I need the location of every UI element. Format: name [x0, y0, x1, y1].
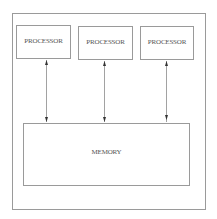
arrow-head-down-3 [165, 115, 168, 120]
arrow-head-up-3 [165, 61, 168, 66]
arrow-head-up-2 [103, 61, 106, 66]
arrow-head-down-1 [45, 117, 48, 122]
arrow-head-up-1 [45, 60, 48, 65]
connection-arrows [0, 0, 217, 219]
arrow-head-down-2 [103, 117, 106, 122]
